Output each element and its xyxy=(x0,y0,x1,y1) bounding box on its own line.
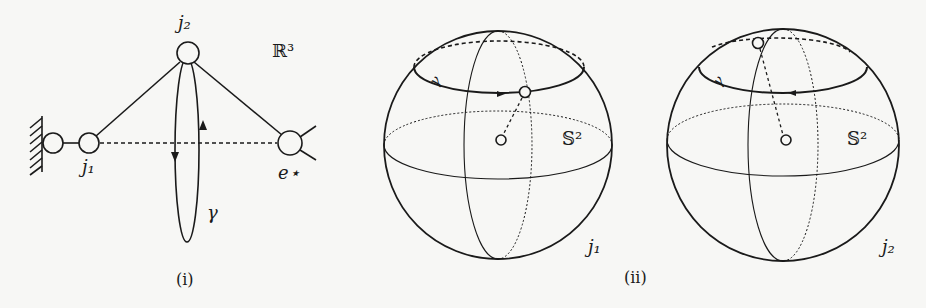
label-r3: ℝ³ xyxy=(272,42,294,60)
caption-ii: (ii) xyxy=(624,270,647,286)
end-effector xyxy=(278,131,302,155)
figure: j₂ ℝ³ j₁ e⋆ γ (i) γ 𝕊² j₁ (ii) γ 𝕊² j₂ xyxy=(0,0,926,308)
label-j1: j₁ xyxy=(82,158,95,176)
label-gamma: γ xyxy=(207,204,218,222)
label-s2-s2: 𝕊² xyxy=(847,130,867,148)
label-s2-s1: 𝕊² xyxy=(562,130,582,148)
link-j1-j2 xyxy=(96,62,180,136)
arrow-up-icon xyxy=(199,120,207,130)
label-e-star: e⋆ xyxy=(278,164,300,182)
arrow-down-icon xyxy=(171,152,179,162)
joint-j2 xyxy=(177,42,199,64)
caption-i: (i) xyxy=(176,272,194,288)
gamma-loop xyxy=(175,58,199,242)
diagram-canvas xyxy=(0,0,926,308)
link-j2-e xyxy=(194,62,282,135)
wall-hatch xyxy=(30,116,42,175)
label-j2-s2: j₂ xyxy=(882,238,895,256)
label-j1-s1: j₁ xyxy=(588,238,601,256)
base-joint xyxy=(43,133,63,153)
label-j2: j₂ xyxy=(178,14,191,32)
